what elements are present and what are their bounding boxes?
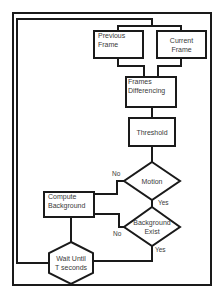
previous-frame-line1: Previous <box>98 31 125 40</box>
previous-frame-label: Previous Frame <box>94 31 143 58</box>
compute-background-line2: Background <box>48 201 85 210</box>
compute-background-line1: Compute <box>48 192 76 201</box>
wait-until-line1: Wait Until <box>56 254 86 263</box>
compute-background-label: Compute Background <box>44 192 94 217</box>
background-no-connector <box>94 214 124 227</box>
current-frame-line1: Current <box>170 36 193 45</box>
background-exist-line1: Background <box>133 218 170 227</box>
threshold-label: Threshold <box>129 118 175 146</box>
frames-differencing-line1: Frames <box>128 77 152 86</box>
merge-connector-left <box>118 58 144 77</box>
background-exist-line2: Exist <box>144 227 159 236</box>
motion-label: Motion <box>124 162 180 200</box>
previous-frame-line2: Frame <box>98 40 118 49</box>
current-frame-line2: Frame <box>171 45 191 54</box>
frames-differencing-label: Frames Differencing <box>126 77 176 107</box>
motion-no-connector <box>94 181 124 194</box>
wait-until-line2: T seconds <box>55 263 87 272</box>
merge-connector-right <box>158 58 181 77</box>
current-frame-label: Current Frame <box>157 31 206 58</box>
wait-until-label: Wait Until T seconds <box>49 242 93 284</box>
motion-no-label: No <box>112 170 120 177</box>
background-yes-label: Yes <box>155 246 166 253</box>
motion-yes-label: Yes <box>158 199 169 206</box>
background-no-label: No <box>113 230 121 237</box>
background-exist-label: Background Exist <box>124 207 180 246</box>
background-yes-connector <box>93 246 152 261</box>
frames-differencing-line2: Differencing <box>128 86 165 95</box>
